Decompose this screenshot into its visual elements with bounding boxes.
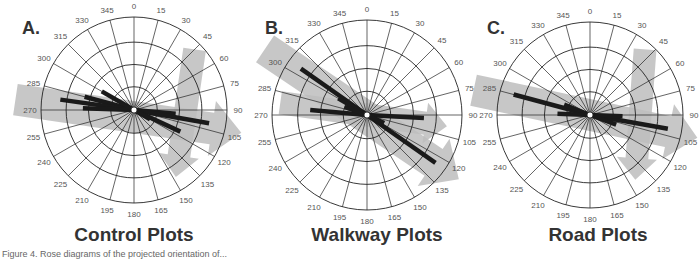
svg-text:90: 90 — [234, 106, 243, 115]
svg-text:90: 90 — [469, 111, 478, 120]
svg-text:270: 270 — [479, 111, 493, 120]
svg-text:300: 300 — [269, 58, 283, 67]
svg-text:240: 240 — [37, 158, 51, 167]
svg-text:285: 285 — [27, 79, 41, 88]
svg-text:195: 195 — [556, 211, 570, 220]
svg-text:30: 30 — [182, 16, 191, 25]
svg-text:255: 255 — [483, 138, 497, 147]
svg-text:30: 30 — [638, 21, 647, 30]
svg-text:345: 345 — [556, 11, 570, 20]
svg-text:0: 0 — [132, 2, 137, 11]
svg-text:210: 210 — [307, 203, 321, 212]
svg-text:210: 210 — [75, 196, 89, 205]
panel-b-letter: B. — [265, 18, 283, 39]
svg-text:120: 120 — [673, 163, 687, 172]
svg-text:255: 255 — [258, 138, 272, 147]
svg-text:75: 75 — [686, 84, 695, 93]
panel-c-title: Road Plots — [548, 224, 647, 246]
svg-text:225: 225 — [54, 180, 68, 189]
svg-text:60: 60 — [676, 59, 685, 68]
svg-text:285: 285 — [483, 84, 497, 93]
svg-text:300: 300 — [37, 54, 51, 63]
svg-text:315: 315 — [510, 37, 524, 46]
svg-text:225: 225 — [285, 186, 299, 195]
svg-text:315: 315 — [285, 36, 299, 45]
svg-text:165: 165 — [154, 206, 168, 215]
svg-text:120: 120 — [452, 164, 466, 173]
figure-caption: Figure 4. Rose diagrams of the projected… — [2, 249, 227, 259]
svg-text:330: 330 — [531, 21, 545, 30]
svg-text:195: 195 — [100, 206, 114, 215]
svg-text:255: 255 — [27, 133, 41, 142]
svg-text:270: 270 — [23, 106, 37, 115]
rose-plot-a: 0153045607590105120135150165180195210225… — [13, 2, 243, 219]
svg-text:225: 225 — [510, 185, 524, 194]
svg-text:0: 0 — [365, 5, 370, 14]
svg-text:195: 195 — [333, 213, 347, 222]
svg-text:120: 120 — [217, 158, 231, 167]
svg-text:240: 240 — [269, 164, 283, 173]
svg-text:345: 345 — [333, 9, 347, 18]
panel-b-title: Walkway Plots — [311, 224, 442, 246]
svg-text:15: 15 — [612, 11, 621, 20]
svg-text:45: 45 — [438, 36, 447, 45]
svg-text:105: 105 — [228, 133, 242, 142]
svg-text:45: 45 — [659, 37, 668, 46]
svg-text:15: 15 — [156, 6, 165, 15]
svg-text:75: 75 — [465, 84, 474, 93]
svg-text:90: 90 — [690, 111, 699, 120]
svg-text:150: 150 — [413, 203, 427, 212]
svg-text:180: 180 — [583, 215, 597, 224]
svg-text:240: 240 — [493, 163, 507, 172]
svg-text:105: 105 — [684, 138, 698, 147]
svg-text:0: 0 — [588, 7, 593, 16]
svg-text:15: 15 — [390, 9, 399, 18]
svg-text:135: 135 — [657, 185, 671, 194]
svg-text:315: 315 — [54, 32, 68, 41]
panel-c-letter: C. — [487, 18, 505, 39]
rose-plot-c: 0153045607590105120135150165180195210225… — [470, 7, 699, 224]
svg-text:330: 330 — [307, 19, 321, 28]
svg-text:210: 210 — [531, 201, 545, 210]
svg-text:30: 30 — [416, 19, 425, 28]
svg-text:135: 135 — [435, 186, 449, 195]
svg-text:165: 165 — [610, 211, 624, 220]
svg-text:75: 75 — [230, 79, 239, 88]
svg-text:285: 285 — [258, 84, 272, 93]
svg-text:150: 150 — [635, 201, 649, 210]
svg-text:45: 45 — [203, 32, 212, 41]
svg-text:300: 300 — [493, 59, 507, 68]
svg-text:345: 345 — [100, 6, 114, 15]
svg-text:330: 330 — [75, 16, 89, 25]
svg-text:165: 165 — [388, 213, 402, 222]
svg-text:180: 180 — [127, 210, 141, 219]
panel-a-letter: A. — [22, 18, 40, 39]
svg-text:105: 105 — [463, 138, 477, 147]
rose-plot-b: 0153045607590105120135150165180195210225… — [254, 5, 478, 226]
svg-text:270: 270 — [254, 111, 268, 120]
panel-a-title: Control Plots — [74, 224, 193, 246]
svg-text:60: 60 — [220, 54, 229, 63]
svg-text:150: 150 — [179, 196, 193, 205]
svg-text:135: 135 — [201, 180, 215, 189]
svg-text:60: 60 — [454, 58, 463, 67]
